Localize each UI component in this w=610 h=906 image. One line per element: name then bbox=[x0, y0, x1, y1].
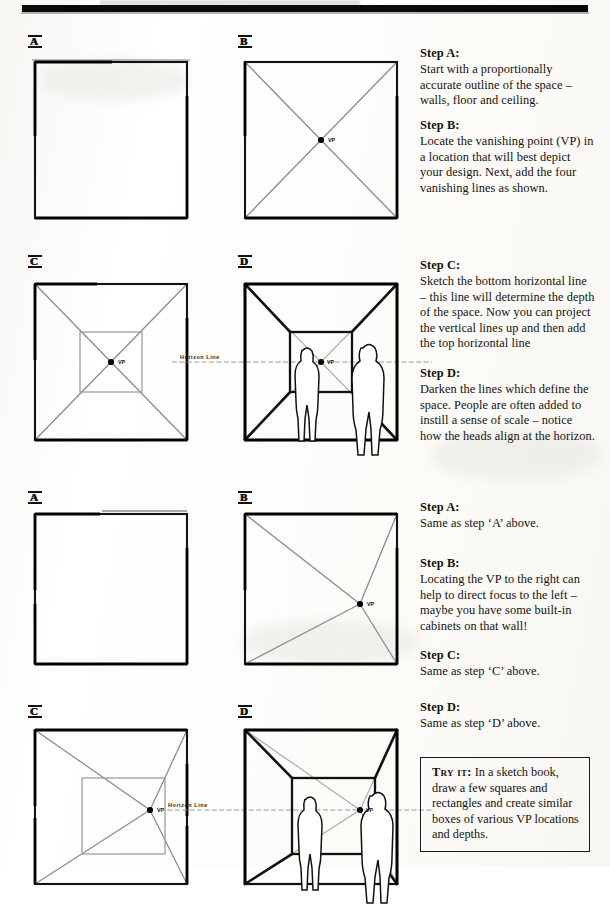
step-heading: Step C: bbox=[420, 258, 596, 274]
figure-tag-icon: D bbox=[240, 256, 247, 267]
figure-tag-icon: B bbox=[240, 36, 247, 47]
try-it-text: Try it: In a sketch book, draw a few squ… bbox=[432, 765, 580, 843]
figure-step-d-2: D Horizon Line bbox=[232, 706, 447, 906]
step-body: Same as step ‘C’ above. bbox=[420, 664, 596, 680]
figure-step-b-2: B VP bbox=[232, 492, 417, 682]
figure-tag-icon: A bbox=[30, 492, 37, 503]
step-body: Locate the vanishing point (VP) in a loc… bbox=[420, 134, 596, 196]
try-it-box: Try it: In a sketch book, draw a few squ… bbox=[420, 757, 590, 852]
figure-tag-icon: C bbox=[30, 706, 37, 717]
step-block-d-1: Step D: Darken the lines which define th… bbox=[420, 366, 596, 444]
step-block-b-1: Step B: Locate the vanishing point (VP) … bbox=[420, 118, 596, 196]
step-heading: Step B: bbox=[420, 118, 596, 134]
step-block-c-1: Step C: Sketch the bottom horizontal lin… bbox=[420, 258, 596, 352]
figure-step-d-1: D Horizon Line bbox=[232, 256, 447, 456]
step-body: Start with a proportionally accurate out… bbox=[420, 62, 596, 109]
vp-label: VP bbox=[118, 359, 126, 365]
try-it-label: Try it: bbox=[432, 765, 472, 779]
instructions-column: Step A: Start with a proportionally accu… bbox=[420, 0, 600, 867]
step-body: Darken the lines which define the space.… bbox=[420, 382, 596, 444]
step-heading: Step D: bbox=[420, 366, 596, 382]
figure-tag-icon: D bbox=[240, 706, 247, 717]
step-body: Sketch the bottom horizontal line – this… bbox=[420, 274, 596, 352]
vp-label: VP bbox=[328, 137, 336, 143]
figures-column: A B bbox=[0, 0, 408, 867]
step-block-c-2: Step C: Same as step ‘C’ above. bbox=[420, 648, 596, 680]
figure-step-a-2: A bbox=[22, 492, 207, 682]
figure-step-a-1: A bbox=[22, 36, 207, 231]
figure-tag-icon: B bbox=[240, 492, 247, 503]
horizon-line-label: Horizon Line bbox=[168, 802, 208, 808]
step-block-a-2: Step A: Same as step ‘A’ above. bbox=[420, 500, 596, 532]
figure-person-left bbox=[298, 797, 322, 890]
step-block-a-1: Step A: Start with a proportionally accu… bbox=[420, 46, 596, 109]
horizon-line-label: Horizon Line bbox=[180, 354, 220, 360]
step-body: Same as step ‘A’ above. bbox=[420, 516, 596, 532]
step-heading: Step C: bbox=[420, 648, 596, 664]
vp-label: VP bbox=[327, 359, 334, 365]
vp-label: VP bbox=[367, 601, 375, 607]
vp-label: VP bbox=[366, 807, 373, 813]
figure-tag-icon: A bbox=[30, 36, 37, 47]
step-body: Locating the VP to the right can help to… bbox=[420, 572, 596, 634]
step-heading: Step A: bbox=[420, 46, 596, 62]
step-heading: Step B: bbox=[420, 556, 596, 572]
step-body: Same as step ‘D’ above. bbox=[420, 716, 596, 732]
step-heading: Step D: bbox=[420, 700, 596, 716]
figure-person-right bbox=[352, 345, 384, 456]
figure-step-b-1: B VP bbox=[232, 36, 417, 231]
step-block-d-2: Step D: Same as step ‘D’ above. bbox=[420, 700, 596, 732]
step-heading: Step A: bbox=[420, 500, 596, 516]
step-block-b-2: Step B: Locating the VP to the right can… bbox=[420, 556, 596, 634]
figure-tag-icon: C bbox=[30, 256, 37, 267]
